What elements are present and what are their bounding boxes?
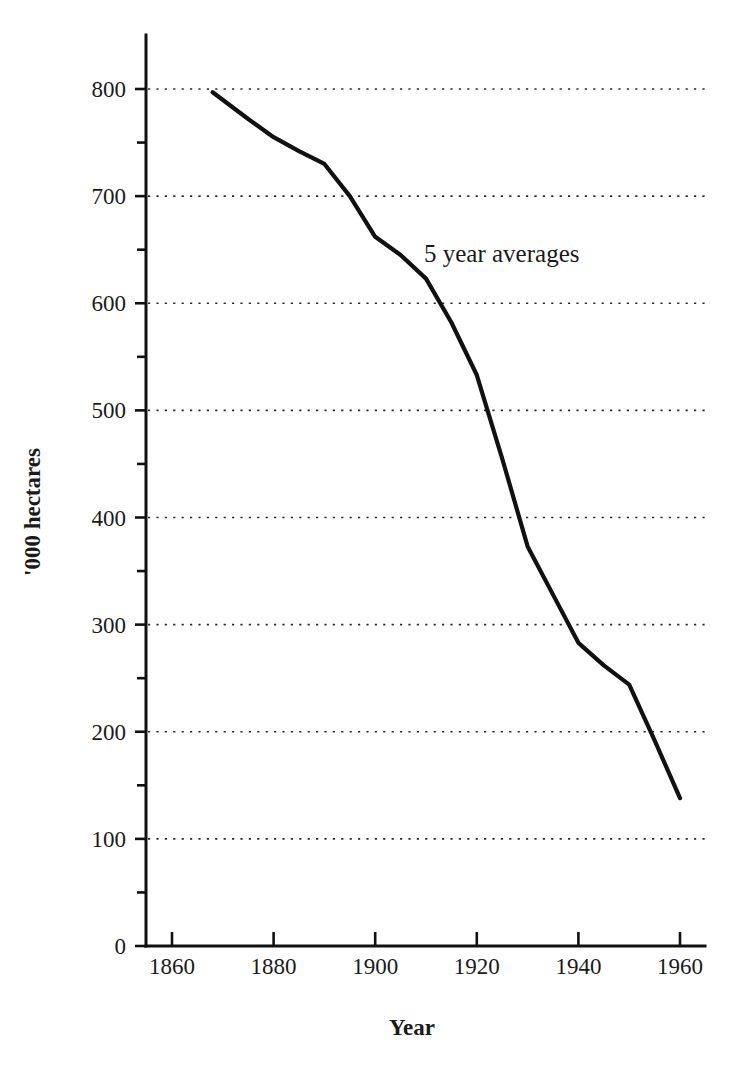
y-tick-label-400: 400	[92, 506, 127, 531]
x-tick-label-group: 186018801900192019401960	[149, 954, 703, 979]
data-line-5-year-averages	[213, 92, 680, 798]
y-tick-label-0: 0	[115, 934, 127, 959]
y-tick-label-group: 0100200300400500600700800	[92, 77, 127, 959]
y-tick-label-300: 300	[92, 613, 127, 638]
gridline-group	[148, 89, 705, 839]
y-tick-label-200: 200	[92, 720, 127, 745]
x-tick-label-1900: 1900	[352, 954, 398, 979]
y-axis-title: '000 hectares	[20, 448, 45, 576]
data-series-group	[213, 92, 680, 798]
chart-annotation: 5 year averages	[424, 240, 579, 267]
axis-group	[146, 35, 705, 946]
x-tick-label-1940: 1940	[555, 954, 601, 979]
x-tick-label-1860: 1860	[149, 954, 195, 979]
line-chart-canvas: 0100200300400500600700800 18601880190019…	[0, 0, 739, 1069]
x-tick-label-1880: 1880	[251, 954, 297, 979]
x-tick-label-1960: 1960	[657, 954, 703, 979]
chart-figure: 0100200300400500600700800 18601880190019…	[0, 0, 739, 1069]
y-tick-label-700: 700	[92, 184, 127, 209]
y-tick-label-800: 800	[92, 77, 127, 102]
y-tick-label-100: 100	[92, 827, 127, 852]
y-tick-label-600: 600	[92, 291, 127, 316]
y-tick-group	[135, 89, 146, 946]
x-tick-group	[172, 932, 680, 946]
y-tick-label-500: 500	[92, 398, 127, 423]
x-axis-title: Year	[389, 1015, 435, 1040]
x-tick-label-1920: 1920	[454, 954, 500, 979]
